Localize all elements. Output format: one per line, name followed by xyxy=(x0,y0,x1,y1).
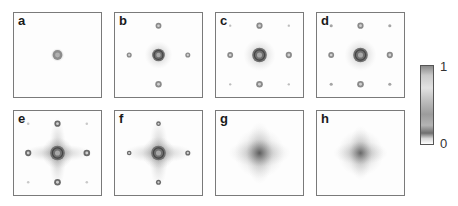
central-core xyxy=(55,150,60,155)
corner-peak xyxy=(86,181,89,184)
bragg-peak-core xyxy=(359,24,362,27)
corner-peak xyxy=(388,24,391,27)
bragg-peak-core xyxy=(287,54,290,57)
bragg-peak-core xyxy=(128,152,130,154)
central-core xyxy=(55,53,60,58)
bragg-peak-core xyxy=(229,54,232,57)
bragg-peak-core xyxy=(187,152,189,154)
corner-peak xyxy=(86,122,89,125)
panel-b: b xyxy=(114,12,203,98)
bragg-peak-core xyxy=(157,181,159,183)
diffraction-pattern xyxy=(317,111,404,195)
bragg-peak-core xyxy=(258,24,261,27)
corner-peak xyxy=(330,24,333,27)
diffraction-pattern xyxy=(216,13,303,97)
panel-f: f xyxy=(114,110,203,196)
bragg-peak-core xyxy=(85,152,88,155)
bragg-peak-core xyxy=(27,152,30,155)
panel-label: h xyxy=(321,112,329,126)
panel-a: a xyxy=(13,12,102,98)
panel-label: g xyxy=(220,112,228,126)
bragg-peak-core xyxy=(258,83,261,86)
bragg-peak-core xyxy=(157,83,160,86)
bragg-peak-core xyxy=(56,122,59,125)
colorbar xyxy=(420,65,434,145)
diffraction-pattern xyxy=(216,111,303,195)
bragg-peak-core xyxy=(187,54,189,56)
diffraction-pattern xyxy=(317,13,404,97)
corner-peak xyxy=(27,122,30,125)
bragg-peak-core xyxy=(359,83,362,86)
diffraction-pattern xyxy=(115,13,202,97)
corner-peak xyxy=(388,83,391,86)
bragg-peak-core xyxy=(157,24,160,27)
panel-g: g xyxy=(215,110,304,196)
bragg-peak-core xyxy=(128,54,130,56)
central-core xyxy=(156,150,161,155)
bragg-peak-core xyxy=(157,123,159,125)
panel-label: f xyxy=(119,112,123,126)
bragg-peak-core xyxy=(56,181,59,184)
panel-label: d xyxy=(321,14,329,28)
diffraction-pattern xyxy=(115,111,202,195)
panel-label: b xyxy=(119,14,127,28)
bragg-peak-core xyxy=(330,54,333,57)
diffraction-pattern xyxy=(14,13,101,97)
corner-peak xyxy=(288,25,290,27)
panel-d: d xyxy=(316,12,405,98)
diffuse-core xyxy=(349,141,372,164)
corner-peak xyxy=(27,181,30,184)
central-core xyxy=(358,52,363,57)
corner-peak xyxy=(229,25,231,27)
panel-e: e xyxy=(13,110,102,196)
panel-label: c xyxy=(220,14,227,28)
diffuse-core xyxy=(246,139,273,166)
diffraction-pattern xyxy=(14,111,101,195)
central-core xyxy=(156,53,160,57)
panel-h: h xyxy=(316,110,405,196)
panel-c: c xyxy=(215,12,304,98)
corner-peak xyxy=(330,83,333,86)
central-core xyxy=(257,52,262,57)
colorbar-max-label: 1 xyxy=(440,60,447,73)
bragg-peak-core xyxy=(388,54,391,57)
panel-label: e xyxy=(18,112,25,126)
corner-peak xyxy=(229,83,231,85)
colorbar-min-label: 0 xyxy=(440,137,447,150)
corner-peak xyxy=(288,83,290,85)
panel-label: a xyxy=(18,14,25,28)
